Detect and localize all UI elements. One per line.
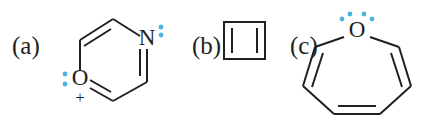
structure-b: (b) (180, 0, 280, 117)
bond-oxygen-to-upper-right (370, 37, 399, 47)
bond-left-upper-inner (312, 53, 323, 87)
oxygen-lone-pair (63, 72, 68, 87)
bond-lower-right (113, 82, 147, 101)
bond-right-upper-inner (391, 53, 402, 87)
oxygen-positive-charge: + (75, 88, 85, 107)
structure-c: (c) O (280, 0, 434, 117)
cyclobutadiene-ring (224, 22, 265, 59)
atom-label-oxygen: O (72, 65, 89, 90)
bond-upper-left-inner (84, 29, 111, 46)
bond-upper-left-to-oxygen (315, 37, 344, 47)
chemical-structures-figure: (a) N O (0, 0, 434, 117)
nitrogen-lone-pair (159, 25, 164, 38)
atom-label-nitrogen: N (139, 25, 156, 50)
bond-left-lower (303, 86, 334, 114)
bond-top-to-nitrogen (113, 19, 140, 36)
bond-right-lower (380, 86, 411, 114)
bond-bottom-to-oxygen (90, 88, 113, 101)
structure-c-diagram: O (280, 0, 434, 117)
structure-a-diagram: N O + (0, 0, 180, 117)
bond-upper-left (80, 19, 113, 40)
structure-b-diagram (180, 0, 280, 117)
atom-label-oxygen: O (349, 17, 366, 42)
structure-a: (a) N O (0, 0, 180, 117)
